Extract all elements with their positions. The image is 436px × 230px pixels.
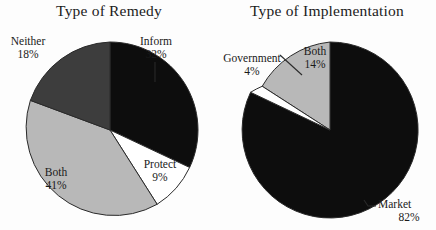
pie-label-inform-name: Inform	[130, 35, 182, 48]
pie-label-both-remedy: Both 41%	[31, 166, 81, 191]
pie-label-inform: Inform 32%	[130, 35, 182, 60]
figure-container: Type of Remedy Neither 18% Inform 32% Pr…	[0, 0, 436, 230]
pie-label-neither: Neither 18%	[2, 35, 54, 60]
pie-label-both-remedy-pct: 41%	[31, 179, 81, 192]
pie-label-market-name: Market	[378, 198, 432, 211]
chart-panel-remedy: Type of Remedy Neither 18% Inform 32% Pr…	[0, 0, 218, 230]
chart-panel-implementation: Type of Implementation Government 4% Bot…	[218, 0, 436, 230]
pie-label-protect: Protect 9%	[134, 158, 186, 183]
pie-label-government-pct: 4%	[218, 65, 286, 78]
pie-label-both-implementation-pct: 14%	[293, 58, 337, 71]
pie-label-government: Government 4%	[218, 52, 286, 77]
pie-label-protect-pct: 9%	[134, 171, 186, 184]
pie-label-market: Market 82%	[378, 198, 432, 223]
pie-label-both-implementation: Both 14%	[293, 45, 337, 70]
pie-label-both-implementation-name: Both	[293, 45, 337, 58]
pie-label-government-name: Government	[218, 52, 286, 65]
pie-label-neither-name: Neither	[2, 35, 54, 48]
pie-chart-implementation	[218, 0, 436, 230]
pie-label-both-remedy-name: Both	[31, 166, 81, 179]
pie-label-inform-pct: 32%	[130, 48, 182, 61]
pie-label-protect-name: Protect	[134, 158, 186, 171]
pie-label-neither-pct: 18%	[2, 48, 54, 61]
pie-label-market-pct: 82%	[378, 211, 432, 224]
